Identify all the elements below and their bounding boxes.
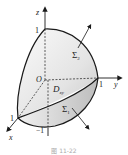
y-axis-label: y — [113, 80, 118, 89]
x-one-label: 1 — [10, 114, 14, 123]
y-one-label: 1 — [99, 80, 103, 89]
figure-caption: 图 11-22 — [51, 147, 77, 155]
z-one-label: 1 — [35, 26, 39, 35]
z-minus-one-label: −1 — [36, 126, 44, 135]
surface-diagram: z 1 O 1 y 1 x −1 Dxy Σ2 Σ1 图 11-22 — [0, 0, 128, 155]
origin-label: O — [36, 75, 42, 84]
z-axis-label: z — [35, 8, 40, 17]
x-axis-label: x — [8, 133, 13, 142]
